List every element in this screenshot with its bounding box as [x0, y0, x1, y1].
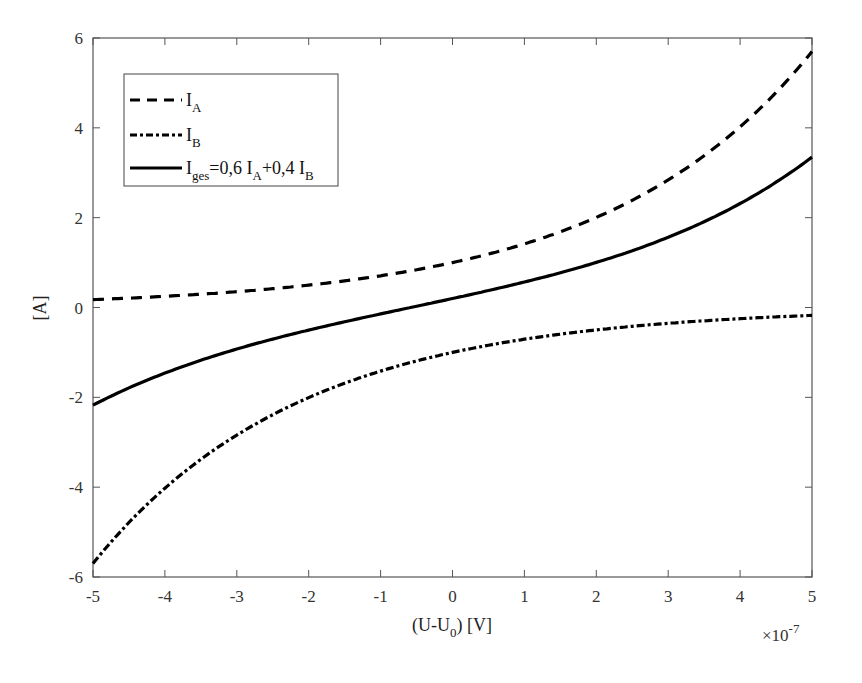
- legend: IA IB Iges=0,6 IA+0,4 IB: [124, 74, 338, 186]
- x-tick-label: 3: [664, 587, 673, 606]
- x-tick-label: -5: [86, 587, 100, 606]
- x-tick-label: 0: [448, 587, 457, 606]
- y-tick-label: -4: [69, 478, 84, 497]
- y-tick-label: 0: [75, 299, 84, 318]
- line-chart: -5-4-3-2-1012345-6-4-20246 [A] (U-U0) [V…: [0, 0, 862, 683]
- y-tick-label: 6: [75, 29, 84, 48]
- y-axis-label: [A]: [30, 296, 50, 321]
- y-tick-label: -2: [69, 388, 83, 407]
- x-tick-label: -4: [158, 587, 173, 606]
- x-tick-label: 4: [736, 587, 745, 606]
- x-tick-label: -2: [302, 587, 316, 606]
- x-tick-label: 1: [520, 587, 529, 606]
- x-tick-label: 5: [808, 587, 817, 606]
- x-axis-multiplier: ×10-7: [762, 621, 800, 645]
- y-tick-label: -6: [69, 568, 83, 587]
- x-axis-label: (U-U0) [V]: [412, 615, 492, 640]
- y-tick-label: 2: [75, 209, 84, 228]
- y-tick-label: 4: [75, 119, 84, 138]
- x-tick-label: -1: [374, 587, 388, 606]
- x-tick-label: 2: [592, 587, 601, 606]
- x-tick-label: -3: [230, 587, 244, 606]
